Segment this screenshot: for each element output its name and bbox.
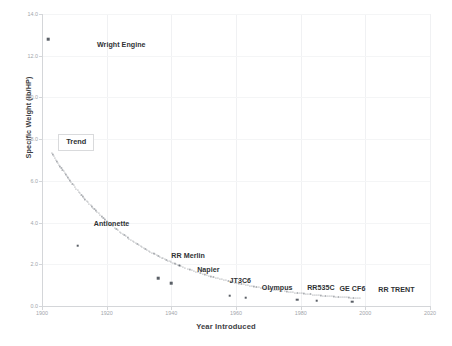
data-point-label: Olympus	[262, 284, 293, 292]
data-point-marker	[351, 301, 354, 304]
x-axis-tick-mark	[301, 307, 302, 310]
gridline-horizontal	[42, 181, 430, 182]
y-axis-tick-mark	[39, 97, 42, 98]
x-axis-tick-label: 1900	[36, 310, 48, 316]
y-axis-tick-mark	[39, 223, 42, 224]
gridline-horizontal	[42, 14, 430, 15]
gridline-horizontal	[42, 139, 430, 140]
data-point-label: JT3C6	[230, 277, 252, 285]
y-axis-tick-label: 14.0	[0, 11, 38, 17]
gridline-vertical	[365, 14, 366, 306]
y-axis-line	[42, 14, 43, 306]
data-point-label: Wright Engine	[97, 41, 146, 49]
gridline-horizontal	[42, 97, 430, 98]
data-point-marker	[228, 294, 231, 297]
y-axis-tick-mark	[39, 264, 42, 265]
y-axis-tick-mark	[39, 14, 42, 15]
x-axis-tick-label: 1980	[295, 310, 307, 316]
gridline-vertical	[301, 14, 302, 306]
data-point-marker	[296, 298, 299, 301]
data-point-label: GE CF6	[339, 285, 365, 293]
data-point-label: Napier	[197, 266, 219, 274]
x-axis-tick-mark	[107, 307, 108, 310]
x-axis-tick-mark	[171, 307, 172, 310]
x-axis-title: Year Introduced	[0, 322, 452, 331]
data-point-label: Antionette	[94, 220, 130, 228]
data-point-marker	[244, 296, 247, 299]
data-point-marker	[47, 38, 50, 41]
y-axis-tick-mark	[39, 56, 42, 57]
x-axis-tick-label: 2020	[424, 310, 436, 316]
x-axis-tick-mark	[430, 307, 431, 310]
data-point-marker	[76, 244, 79, 247]
gridline-horizontal	[42, 56, 430, 57]
data-point-label: RR Merlin	[171, 252, 205, 260]
data-point-label: RR535C	[307, 284, 335, 292]
x-axis-tick-label: 1940	[165, 310, 177, 316]
trend-callout-box: Trend	[58, 134, 94, 150]
data-point-marker	[316, 299, 319, 302]
x-axis-tick-label: 1960	[230, 310, 242, 316]
data-point-label: RR TRENT	[378, 286, 414, 294]
y-axis-tick-mark	[39, 181, 42, 182]
y-axis-title: Specific Weight (lb/HP)	[24, 38, 33, 198]
y-axis-tick-mark	[39, 139, 42, 140]
data-point-marker	[170, 282, 173, 285]
x-axis-tick-mark	[236, 307, 237, 310]
plot-area	[42, 14, 430, 306]
x-axis-tick-mark	[365, 307, 366, 310]
x-axis-tick-label: 1920	[101, 310, 113, 316]
gridline-horizontal	[42, 264, 430, 265]
gridline-vertical	[107, 14, 108, 306]
y-axis-tick-label: 2.0	[0, 261, 38, 267]
gridline-vertical	[236, 14, 237, 306]
x-axis-tick-mark	[42, 307, 43, 310]
gridline-vertical	[430, 14, 431, 306]
y-axis-tick-label: 4.0	[0, 220, 38, 226]
x-axis-tick-label: 2000	[359, 310, 371, 316]
chart-container: 0.02.04.06.08.010.012.014.0 190019201940…	[0, 0, 452, 346]
y-axis-tick-label: 0.0	[0, 303, 38, 309]
data-point-marker	[157, 277, 160, 280]
